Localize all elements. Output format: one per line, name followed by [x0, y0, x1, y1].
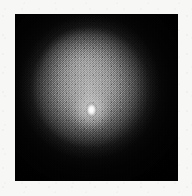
halo-outer-layer	[15, 14, 178, 181]
grain-fine-layer	[15, 14, 178, 181]
plate-edge	[15, 14, 178, 181]
halo-inner-layer	[15, 14, 178, 181]
nucleus-glow	[71, 89, 111, 132]
nucleus-core-icon	[85, 102, 98, 119]
astronomical-figure	[0, 0, 192, 196]
vignette-layer	[15, 14, 178, 181]
grain-speckle-layer	[15, 14, 178, 181]
halo-lobe-layer	[15, 14, 178, 181]
image-plate	[15, 14, 178, 181]
grain-coarse-layer	[15, 14, 178, 181]
